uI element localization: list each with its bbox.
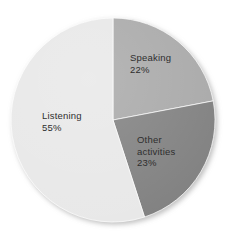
pie-chart-canvas [0, 0, 229, 242]
pie-chart: Speaking 22% Other activities 23% Listen… [0, 0, 229, 242]
pie-sheen-overlay [11, 18, 215, 222]
